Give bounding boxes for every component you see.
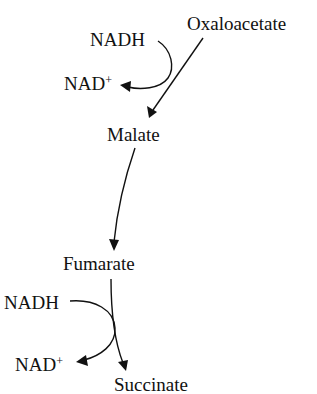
pathway-diagram: Oxaloacetate NADH NAD+ Malate Fumarate N… — [0, 0, 317, 394]
arrow-nadh-to-nad-bottom — [70, 301, 115, 366]
arrow-malate-to-fumarate — [109, 148, 135, 251]
pathway-arrows — [0, 0, 317, 394]
arrow-fumarate-to-succinate — [111, 279, 128, 371]
node-succinate: Succinate — [114, 375, 188, 394]
cofactor-nad-plus-bottom: NAD+ — [15, 355, 63, 374]
nad-base: NAD — [64, 73, 105, 94]
cofactor-nadh-bottom: NADH — [4, 293, 59, 312]
nad-charge: + — [105, 73, 112, 87]
node-fumarate: Fumarate — [63, 254, 135, 273]
arrow-oxaloacetate-to-malate — [147, 38, 203, 118]
nad-base: NAD — [15, 354, 56, 375]
nad-charge: + — [56, 354, 63, 368]
cofactor-nadh-top: NADH — [90, 30, 145, 49]
node-malate: Malate — [107, 125, 160, 144]
node-oxaloacetate: Oxaloacetate — [187, 14, 286, 33]
cofactor-nad-plus-top: NAD+ — [64, 74, 112, 93]
